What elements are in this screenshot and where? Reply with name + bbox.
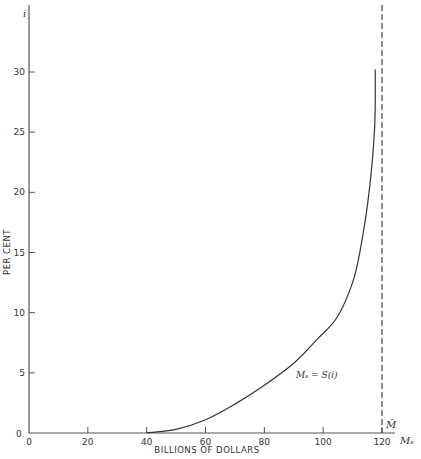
y-tick-label: 10 [14, 308, 26, 318]
x-tick-label: 120 [373, 437, 390, 447]
y-ticks: 51015202530 [14, 67, 35, 378]
y-tick-label: 20 [14, 187, 26, 197]
y-tick-label: 30 [14, 67, 26, 77]
supply-curve [147, 70, 376, 433]
y-tick-label: 15 [14, 248, 25, 258]
x-tick-label: 80 [259, 437, 271, 447]
y-axis-symbol: i [23, 8, 26, 19]
mbar-label: M̄ [385, 419, 397, 430]
x-tick-label: 0 [26, 437, 32, 447]
y-axis-title: PER CENT [2, 229, 12, 275]
x-tick-label: 20 [82, 437, 94, 447]
y-tick-label: 25 [14, 127, 25, 137]
supply-curve-chart: 51015202530 020406080100120 i PER CENT B… [0, 0, 421, 459]
x-ticks: 020406080100120 [26, 427, 391, 447]
y-zero-label: 0 [16, 429, 22, 439]
x-tick-label: 40 [141, 437, 153, 447]
x-tick-label: 100 [315, 437, 332, 447]
curve-label: Mₛ = S(i) [295, 370, 338, 380]
x-axis-symbol: Mₛ [399, 435, 414, 446]
y-tick-label: 5 [19, 368, 25, 378]
x-axis-title: BILLIONS OF DOLLARS [154, 445, 259, 455]
